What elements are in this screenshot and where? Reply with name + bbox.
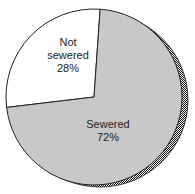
pie-chart: Notsewered28%Sewered72% [0, 0, 195, 194]
